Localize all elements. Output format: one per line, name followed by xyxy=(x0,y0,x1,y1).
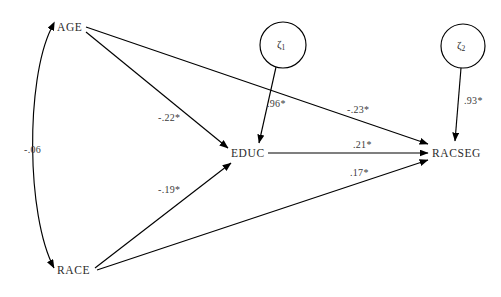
path-arrow-zeta2-to-racseg xyxy=(455,68,461,141)
path-arrow-race-to-educ xyxy=(95,163,231,268)
path-arrow-age-to-racseg xyxy=(86,27,428,144)
coefficient-label-age-racseg: -.23* xyxy=(347,105,369,115)
zeta1-subscript: 1 xyxy=(282,43,286,52)
node-label-educ: EDUC xyxy=(231,148,265,160)
disturbance-label-zeta1: ζ1 xyxy=(277,39,285,50)
disturbance-label-zeta2: ζ2 xyxy=(457,40,465,51)
coefficient-label-age-educ: -.22* xyxy=(158,113,180,123)
node-label-age: AGE xyxy=(57,22,82,34)
zeta2-subscript: 2 xyxy=(462,44,466,53)
coefficient-label-zeta2-racseg: .93* xyxy=(464,96,483,106)
coefficient-label-race-racseg: .17* xyxy=(350,168,369,178)
path-arrow-race-to-racseg xyxy=(97,160,428,270)
coefficient-label-zeta1-educ: .96* xyxy=(267,99,286,109)
path-arrow-age-to-educ xyxy=(86,32,228,148)
coefficient-label-age-race-covariance: -.06 xyxy=(24,145,41,155)
node-label-racseg: RACSEG xyxy=(432,148,481,160)
node-label-race: RACE xyxy=(57,265,90,277)
zeta1-symbol: ζ xyxy=(277,38,282,50)
zeta2-symbol: ζ xyxy=(457,39,462,51)
path-diagram-canvas: AGE RACE EDUC RACSEG ζ1 ζ2 -.22* -.23* -… xyxy=(0,0,501,297)
coefficient-label-race-educ: -.19* xyxy=(158,185,180,195)
coefficient-label-educ-racseg: .21* xyxy=(353,140,372,150)
